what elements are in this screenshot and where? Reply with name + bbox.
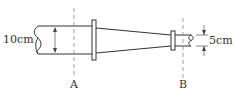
small-pipe-break-curve [189,35,191,41]
small-diameter-label: 5cm [209,34,233,47]
arrowhead-down-icon [53,48,57,53]
section-a-label: A [69,78,79,91]
arrowhead-up-icon [202,46,206,51]
taper-top-edge [96,28,171,35]
arrowhead-up-icon [53,27,57,32]
flange-large [92,20,96,60]
arrowhead-down-icon [202,30,206,35]
large-pipe-break-curve [36,38,38,54]
dimension-5cm [196,25,208,56]
large-pipe [34,26,92,54]
dimension-10cm [53,27,57,53]
flange-small [171,31,175,50]
taper-bottom-edge [96,46,171,53]
tapered-section [96,28,171,53]
large-pipe-break-line [34,26,41,54]
large-diameter-label: 10cm [3,33,34,46]
small-pipe [175,35,193,46]
pipe-reducer-diagram: 10cm 5cm A B [0,0,236,97]
section-b-label: B [179,78,187,91]
